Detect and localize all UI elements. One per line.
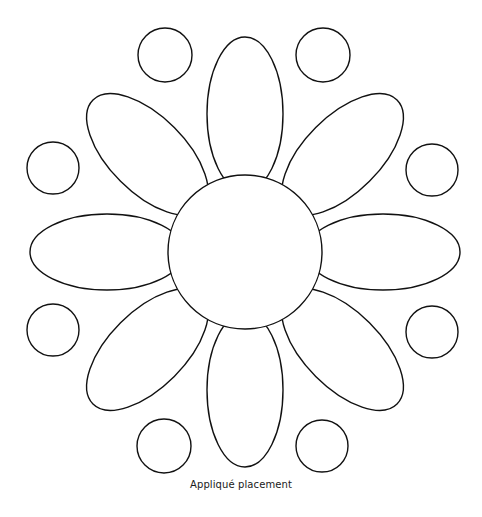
dot-bottom-left [137, 419, 191, 473]
dot-right-upper [406, 144, 458, 196]
petal-top [207, 37, 283, 191]
dot-left-upper [27, 142, 79, 194]
dot-bottom-right [296, 420, 348, 472]
dot-top-right [296, 28, 350, 82]
dot-right-lower [406, 306, 458, 358]
dot-top-left [138, 28, 192, 82]
petal-bottom [207, 313, 283, 467]
flower-center [168, 175, 322, 329]
dot-left-lower [27, 304, 79, 356]
figure-caption: Appliqué placement [0, 479, 482, 490]
applique-diagram [0, 0, 482, 517]
petal-right [306, 214, 460, 290]
petal-left [30, 214, 184, 290]
